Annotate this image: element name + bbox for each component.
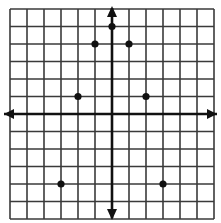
data-point — [108, 23, 115, 30]
data-point — [91, 40, 98, 47]
coordinate-plane — [0, 0, 221, 223]
data-point — [125, 40, 132, 47]
x-axis-right-arrow-icon — [207, 109, 217, 119]
y-axis-up-arrow-icon — [107, 6, 117, 17]
data-point — [74, 93, 81, 100]
axes — [4, 6, 217, 220]
data-point — [57, 180, 64, 187]
data-point — [142, 93, 149, 100]
data-point — [159, 180, 166, 187]
x-axis-left-arrow-icon — [4, 109, 14, 119]
